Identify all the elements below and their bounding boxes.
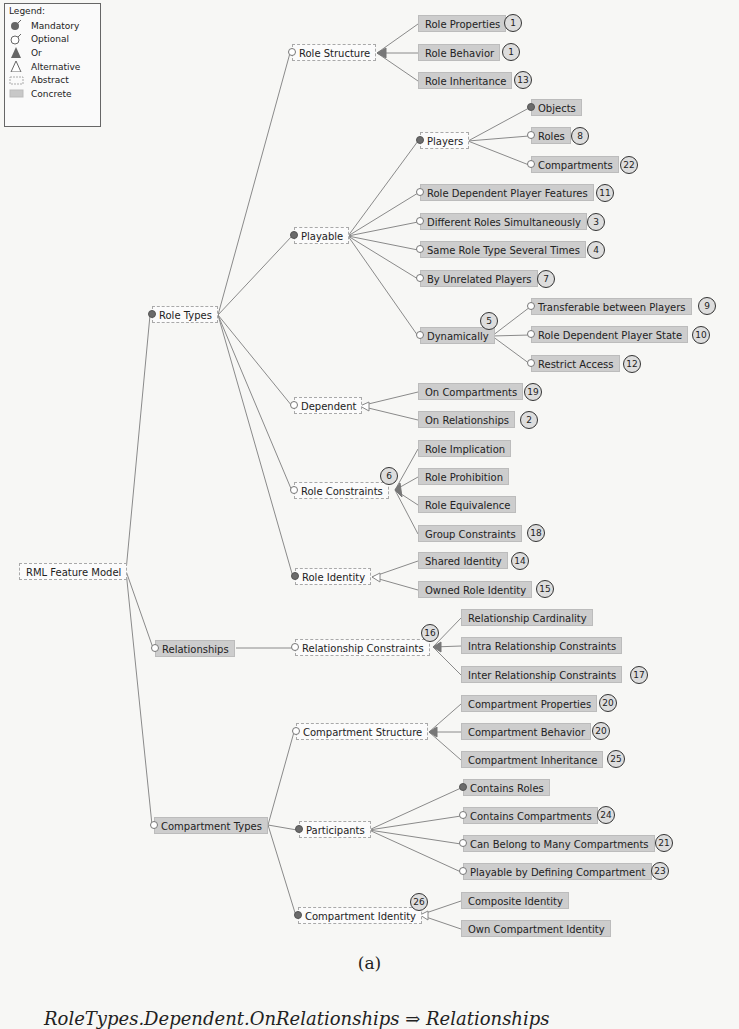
legend-item-or: Or xyxy=(9,46,96,60)
feature-group-constraints[interactable]: Group Constraints xyxy=(418,525,522,542)
feature-root[interactable]: RML Feature Model xyxy=(19,563,127,580)
reference-badge: 1 xyxy=(504,14,522,32)
alternative-group-icon xyxy=(372,573,380,582)
feature-by-unrelated-players[interactable]: By Unrelated Players xyxy=(420,270,538,287)
feature-role-types[interactable]: Role Types xyxy=(152,306,218,323)
reference-badge: 9 xyxy=(698,297,716,315)
reference-badge: 21 xyxy=(655,834,673,852)
feature-compartment-inheritance[interactable]: Compartment Inheritance xyxy=(461,751,603,768)
feature-compartment-behavior[interactable]: Compartment Behavior xyxy=(461,723,591,740)
mandatory-icon xyxy=(9,20,31,31)
feature-different-roles-simultaneously[interactable]: Different Roles Simultaneously xyxy=(420,213,587,230)
reference-badge: 16 xyxy=(421,624,439,642)
feature-relationship-constraints[interactable]: Relationship Constraints xyxy=(295,639,430,656)
feature-owned-role-identity[interactable]: Owned Role Identity xyxy=(418,581,532,598)
feature-inter-relationship-constraints[interactable]: Inter Relationship Constraints xyxy=(461,666,622,683)
optional-icon xyxy=(527,330,535,338)
feature-contains-roles[interactable]: Contains Roles xyxy=(463,779,550,796)
optional-icon xyxy=(290,486,298,494)
feature-participants[interactable]: Participants xyxy=(299,821,371,838)
legend-item-concrete: Concrete xyxy=(9,87,96,101)
mandatory-icon xyxy=(527,103,535,111)
feature-shared-identity[interactable]: Shared Identity xyxy=(418,552,508,569)
feature-role-dependent-player-features[interactable]: Role Dependent Player Features xyxy=(420,184,594,201)
optional-icon xyxy=(416,245,424,253)
optional-icon xyxy=(527,160,535,168)
feature-role-inheritance[interactable]: Role Inheritance xyxy=(418,72,512,89)
feature-roles[interactable]: Roles xyxy=(531,127,571,144)
optional-icon xyxy=(150,821,158,829)
feature-dependent[interactable]: Dependent xyxy=(294,397,362,414)
feature-contains-compartments[interactable]: Contains Compartments xyxy=(463,807,598,824)
reference-badge: 19 xyxy=(524,383,542,401)
legend-title: Legend: xyxy=(9,6,96,16)
feature-playable[interactable]: Playable xyxy=(294,227,349,244)
reference-badge: 24 xyxy=(597,806,615,824)
reference-badge: 5 xyxy=(480,312,498,330)
reference-badge: 7 xyxy=(537,270,555,288)
feature-restrict-access[interactable]: Restrict Access xyxy=(531,355,620,372)
feature-role-prohibition[interactable]: Role Prohibition xyxy=(418,468,509,485)
feature-compartments[interactable]: Compartments xyxy=(531,156,619,173)
feature-relationships[interactable]: Relationships xyxy=(155,640,235,657)
feature-role-behavior[interactable]: Role Behavior xyxy=(418,44,500,61)
feature-role-properties[interactable]: Role Properties xyxy=(418,15,506,32)
feature-playable-by-defining-compartment[interactable]: Playable by Defining Compartment xyxy=(463,863,652,880)
feature-can-belong-to-many-compartments[interactable]: Can Belong to Many Compartments xyxy=(463,835,655,852)
reference-badge: 26 xyxy=(410,893,428,911)
reference-badge: 20 xyxy=(599,694,617,712)
feature-compartment-identity[interactable]: Compartment Identity xyxy=(298,907,422,924)
feature-relationship-cardinality[interactable]: Relationship Cardinality xyxy=(461,609,593,626)
feature-role-equivalence[interactable]: Role Equivalence xyxy=(418,496,516,513)
feature-own-compartment-identity[interactable]: Own Compartment Identity xyxy=(461,920,611,937)
feature-intra-relationship-constraints[interactable]: Intra Relationship Constraints xyxy=(461,637,622,654)
reference-badge: 1 xyxy=(502,43,520,61)
feature-objects[interactable]: Objects xyxy=(531,99,582,116)
mandatory-icon xyxy=(148,310,156,318)
feature-role-implication[interactable]: Role Implication xyxy=(418,440,511,457)
feature-role-constraints[interactable]: Role Constraints xyxy=(294,482,389,499)
mandatory-icon xyxy=(294,911,302,919)
feature-role-structure[interactable]: Role Structure xyxy=(292,44,376,61)
feature-role-dependent-player-state[interactable]: Role Dependent Player State xyxy=(531,326,688,343)
feature-compartment-structure[interactable]: Compartment Structure xyxy=(296,723,428,740)
reference-badge: 8 xyxy=(571,127,589,145)
feature-on-relationships[interactable]: On Relationships xyxy=(418,411,515,428)
feature-same-role-type-several-times[interactable]: Same Role Type Several Times xyxy=(420,241,586,258)
reference-badge: 4 xyxy=(587,241,605,259)
feature-on-compartments[interactable]: On Compartments xyxy=(418,383,523,400)
optional-icon xyxy=(288,48,296,56)
legend-item-abstract: Abstract xyxy=(9,73,96,87)
feature-compartment-properties[interactable]: Compartment Properties xyxy=(461,695,597,712)
optional-icon xyxy=(9,34,31,45)
reference-badge: 11 xyxy=(596,184,614,202)
reference-badge: 20 xyxy=(592,722,610,740)
feature-role-identity[interactable]: Role Identity xyxy=(295,568,371,585)
feature-dynamically[interactable]: Dynamically xyxy=(420,327,495,344)
optional-icon xyxy=(459,839,467,847)
optional-icon xyxy=(291,643,299,651)
legend-item-optional: Optional xyxy=(9,33,96,47)
reference-badge: 12 xyxy=(623,355,641,373)
reference-badge: 22 xyxy=(620,156,638,174)
reference-badge: 6 xyxy=(380,467,398,485)
mandatory-icon xyxy=(416,136,424,144)
optional-icon xyxy=(459,867,467,875)
optional-icon xyxy=(151,644,159,652)
reference-badge: 15 xyxy=(536,580,554,598)
mandatory-icon xyxy=(459,783,467,791)
feature-composite-identity[interactable]: Composite Identity xyxy=(461,892,569,909)
alternative-group-icon xyxy=(9,61,31,72)
optional-icon xyxy=(527,302,535,310)
feature-transferable-between-players[interactable]: Transferable between Players xyxy=(531,298,692,315)
optional-icon xyxy=(292,727,300,735)
optional-icon xyxy=(416,331,424,339)
feature-players[interactable]: Players xyxy=(420,132,469,149)
reference-badge: 13 xyxy=(514,71,532,89)
mandatory-icon xyxy=(290,231,298,239)
feature-compartment-types[interactable]: Compartment Types xyxy=(154,817,268,834)
reference-badge: 2 xyxy=(520,411,538,429)
optional-icon xyxy=(527,359,535,367)
reference-badge: 14 xyxy=(511,552,529,570)
optional-icon xyxy=(416,217,424,225)
